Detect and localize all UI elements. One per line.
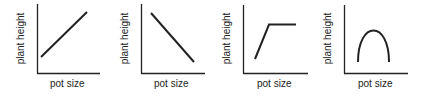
y-axis-label: plant height [322, 9, 333, 69]
panel-increasing: plant height pot size [0, 0, 105, 97]
trend-line [151, 13, 194, 62]
y-axis-label: plant height [221, 9, 232, 69]
x-axis-label: pot size [154, 78, 188, 89]
panel-decreasing: plant height pot size [105, 0, 210, 97]
x-axis-label: pot size [358, 78, 392, 89]
trend-curve [358, 31, 389, 63]
x-axis-label: pot size [50, 78, 84, 89]
trend-line [255, 25, 296, 60]
panel-plateau: plant height pot size [210, 0, 312, 97]
panel-arch: plant height pot size [312, 0, 422, 97]
y-axis-label: plant height [119, 9, 130, 69]
y-axis-label: plant height [15, 9, 26, 69]
x-axis-label: pot size [257, 78, 291, 89]
trend-line [41, 12, 87, 57]
